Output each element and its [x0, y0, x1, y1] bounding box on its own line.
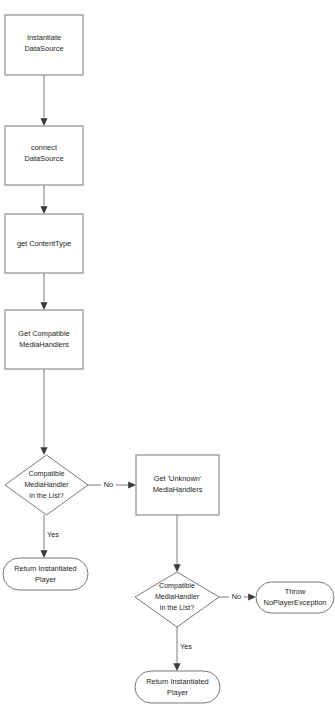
node-get-unknown-mediahandlers-line1: Get 'Unknown' [154, 474, 202, 483]
node-throw-noplayerexception: Throw NoPlayerException [256, 582, 334, 613]
node-return-player-2-line1: Return Instantiated [146, 677, 208, 686]
node-instantiate-datasource: Instantiate DataSource [5, 15, 83, 75]
node-connect-datasource: connect DataSource [5, 126, 83, 185]
edge-label-yes-2-text: Yes [180, 642, 192, 651]
node-decision-compatible-1-line2: MediaHandler [24, 481, 69, 489]
node-get-contenttype-line1: get ContentType [17, 239, 71, 248]
edge-contenttype-to-getcompatible [40, 273, 47, 310]
node-get-compatible-mediahandlers-line2: MediaHandlers [19, 340, 69, 349]
edge-label-yes-1-text: Yes [47, 530, 59, 539]
edge-label-no-1-text: No [104, 480, 113, 489]
edge-instantiate-to-connect [40, 75, 47, 126]
node-decision-compatible-1-line1: Compatible [29, 470, 65, 478]
edge-label-no-2-text: No [232, 592, 241, 601]
node-return-player-1-line1: Return Instantiated [14, 564, 76, 573]
node-get-compatible-mediahandlers: Get Compatible MediaHandlers [5, 310, 83, 369]
flowchart-canvas: Instantiate DataSource connect DataSourc… [0, 0, 335, 710]
node-decision-compatible-1: Compatible MediaHandler in the List? [5, 455, 88, 515]
node-return-player-2-line2: Player [167, 688, 188, 697]
node-connect-datasource-line2: DataSource [24, 154, 63, 163]
node-decision-compatible-1-line3: in the List? [29, 492, 63, 500]
node-throw-noplayerexception-line2: NoPlayerException [264, 598, 327, 607]
edge-label-yes-1: Yes [47, 530, 59, 539]
node-decision-compatible-2-line3: in the List? [160, 604, 194, 612]
node-return-player-1-line2: Player [35, 575, 56, 584]
node-get-contenttype: get ContentType [5, 214, 83, 273]
node-decision-compatible-2: Compatible MediaHandler in the List? [135, 572, 219, 627]
edge-connect-to-contenttype [40, 185, 47, 214]
node-get-unknown-mediahandlers: Get 'Unknown' MediaHandlers [136, 455, 219, 515]
node-decision-compatible-2-line1: Compatible [159, 582, 195, 590]
flowchart-diagram: Instantiate DataSource connect DataSourc… [0, 0, 335, 710]
node-instantiate-datasource-line1: Instantiate [27, 33, 61, 42]
edge-label-yes-2: Yes [180, 642, 192, 651]
edge-getcompatible-to-decision1 [40, 369, 47, 455]
node-throw-noplayerexception-line1: Throw [285, 587, 306, 596]
node-return-player-2: Return Instantiated Player [135, 671, 220, 703]
edge-label-no-2: No [229, 591, 244, 602]
node-connect-datasource-line1: connect [31, 143, 57, 152]
edge-getunknown-to-decision2 [173, 515, 180, 572]
node-decision-compatible-2-line2: MediaHandler [155, 593, 200, 601]
node-get-unknown-mediahandlers-line2: MediaHandlers [153, 485, 203, 494]
node-get-compatible-mediahandlers-line1: Get Compatible [18, 329, 69, 338]
node-instantiate-datasource-line2: DataSource [24, 44, 63, 53]
node-return-player-1: Return Instantiated Player [3, 558, 88, 590]
edge-label-no-1: No [101, 479, 116, 490]
